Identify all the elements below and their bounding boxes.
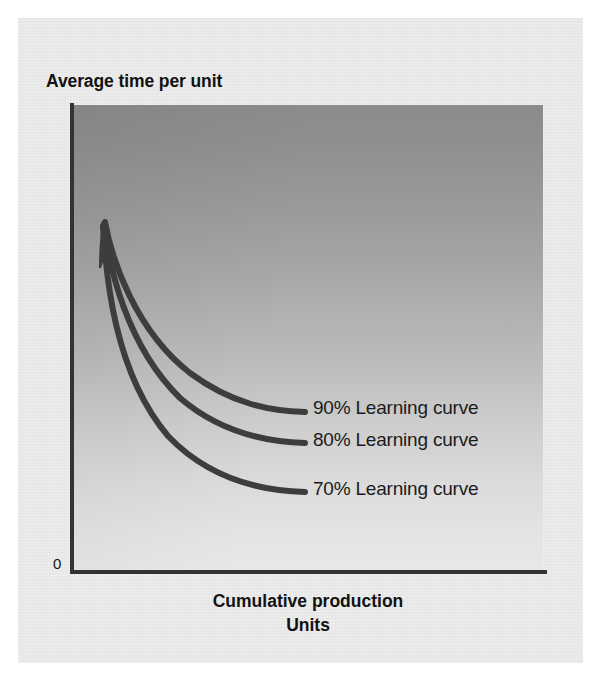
x-axis-title: Cumulative production Units <box>73 590 543 637</box>
learning-curve-figure: Average time per unit 0 90% Learning cur… <box>0 0 605 687</box>
curve-70 <box>103 226 305 492</box>
curves-layer <box>0 0 605 687</box>
legend-label-80-percent: 80% Learning curve <box>313 429 478 451</box>
x-axis-title-line-2: Units <box>73 614 543 638</box>
legend-label-70-percent: 70% Learning curve <box>313 478 478 500</box>
legend-label-90-percent: 90% Learning curve <box>313 397 478 419</box>
x-axis-title-line-1: Cumulative production <box>73 590 543 614</box>
